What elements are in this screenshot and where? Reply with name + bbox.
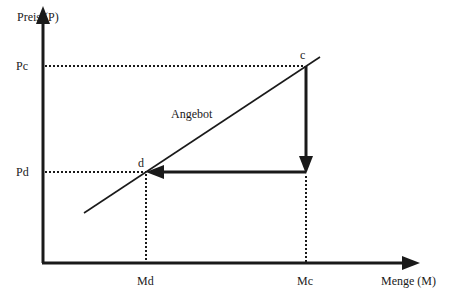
arrow-left bbox=[146, 165, 306, 179]
point-label-c: c bbox=[300, 48, 305, 62]
price-tick-pc: Pc bbox=[16, 59, 28, 73]
supply-curve bbox=[84, 57, 320, 213]
supply-diagram: Preis (P) Menge (M) Angebot Pc Pd Md Mc … bbox=[0, 0, 458, 301]
x-axis bbox=[42, 256, 420, 270]
price-tick-pd: Pd bbox=[16, 165, 29, 179]
arrow-left-icon bbox=[146, 165, 164, 179]
curve-label: Angebot bbox=[171, 107, 213, 121]
quantity-tick-mc: Mc bbox=[297, 274, 313, 288]
quantity-tick-md: Md bbox=[137, 274, 154, 288]
point-label-d: d bbox=[138, 156, 144, 170]
guide-lines bbox=[45, 66, 306, 262]
y-axis-label: Preis (P) bbox=[17, 10, 59, 24]
x-axis-arrow-icon bbox=[402, 256, 420, 270]
x-axis-label: Menge (M) bbox=[381, 274, 436, 288]
y-axis bbox=[36, 6, 50, 263]
arrow-down bbox=[299, 66, 313, 174]
